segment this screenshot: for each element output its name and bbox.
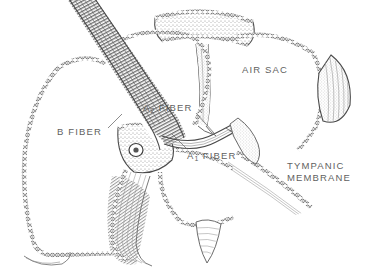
label-a2-suffix: FIBER: [155, 102, 193, 113]
label-a2-fiber: A2 FIBER: [143, 102, 192, 116]
label-tympanic-line2: MEMBRANE: [287, 172, 351, 183]
label-a1-suffix: FIBER: [199, 150, 237, 161]
label-a2-prefix: A: [143, 102, 151, 113]
label-tympanic-membrane: TYMPANICMEMBRANE: [287, 160, 351, 183]
label-air-sac: AIR SAC: [242, 64, 288, 76]
tympanic-organ-figure: [0, 0, 366, 279]
label-tympanic-line1: TYMPANIC: [287, 160, 345, 171]
label-a1-prefix: A: [187, 150, 195, 161]
label-b-fiber: B FIBER: [57, 126, 102, 138]
label-a1-fiber: A1 FIBER: [187, 150, 236, 164]
